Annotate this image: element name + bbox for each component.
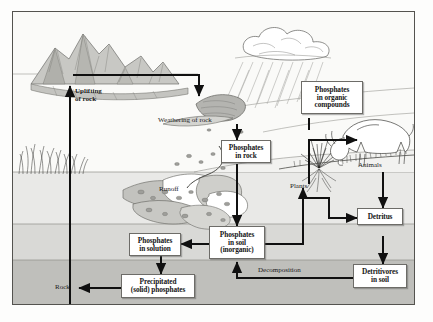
box-detritivores-in-soil[interactable]: Detritivores in soil [353, 264, 407, 288]
phosphorus-cycle-figure: Phosphates in organic compounds Phosphat… [0, 0, 433, 322]
label-animals: Animals [358, 162, 382, 170]
box-precipitated-solid-phosphates[interactable]: Precipitated (solid) phosphates [121, 274, 195, 298]
box-line: (solid) phosphates [131, 285, 185, 294]
label-weathering-of-rock: Weathering of rock [158, 117, 212, 125]
box-phosphates-in-organic-compounds[interactable]: Phosphates in organic compounds [301, 81, 363, 114]
box-phosphates-in-rock[interactable]: Phosphates in rock [221, 140, 271, 163]
box-line: in rock [235, 151, 256, 160]
box-phosphates-in-solution[interactable]: Phosphates in solution [129, 233, 181, 256]
box-line: in soil [371, 275, 389, 284]
box-line: Detritus [368, 213, 393, 221]
label-decomposition: Decomposition [258, 267, 301, 275]
label-rock: Rock [55, 284, 70, 292]
diagram-canvas [13, 12, 414, 304]
box-line: (inorganic) [220, 245, 253, 254]
label-runoff: Runoff [159, 186, 179, 194]
box-detritus[interactable]: Detritus [357, 208, 403, 225]
label-plants: Plants [290, 183, 307, 191]
box-phosphates-in-soil[interactable]: Phosphates in soil (inorganic) [209, 226, 265, 259]
diagram-frame: Phosphates in organic compounds Phosphat… [12, 11, 415, 305]
box-line: compounds [315, 100, 350, 109]
label-uplifting-of-rock: Uplifting of rock [75, 88, 102, 104]
box-line: in solution [139, 244, 171, 253]
